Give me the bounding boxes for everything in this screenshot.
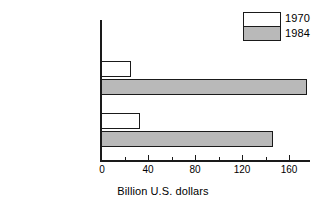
x-tick-label-160: 160 xyxy=(281,165,298,175)
x-tick-0 xyxy=(101,155,102,160)
legend-swatch-1970 xyxy=(244,13,280,27)
x-tick-label-40: 40 xyxy=(142,165,153,175)
bar-pacific-rim-1970 xyxy=(101,61,131,77)
x-tick-160 xyxy=(289,155,290,160)
x-tick-minor-20 xyxy=(125,157,126,161)
legend-swatch-box xyxy=(243,12,281,41)
bar-pacific-rim-1984 xyxy=(101,79,307,95)
legend-swatch-1984 xyxy=(244,27,280,41)
legend-label-1984: 1984 xyxy=(285,28,310,39)
x-tick-minor-140 xyxy=(266,157,267,161)
x-tick-label-0: 0 xyxy=(99,165,105,175)
x-tick-minor-100 xyxy=(219,157,220,161)
legend-label-1970: 1970 xyxy=(285,13,310,24)
bar-western-europe-1970 xyxy=(101,113,140,129)
x-tick-120 xyxy=(242,155,243,160)
x-axis-line xyxy=(100,160,310,162)
bar-chart: 1970 1984 0 40 80 120 160 Pacific Rim We… xyxy=(0,0,326,207)
x-tick-80 xyxy=(195,155,196,160)
x-tick-label-120: 120 xyxy=(234,165,251,175)
x-tick-40 xyxy=(148,155,149,160)
x-tick-minor-60 xyxy=(172,157,173,161)
x-axis-title: Billion U.S. dollars xyxy=(0,186,326,197)
bar-western-europe-1984 xyxy=(101,131,273,147)
x-tick-label-80: 80 xyxy=(189,165,200,175)
